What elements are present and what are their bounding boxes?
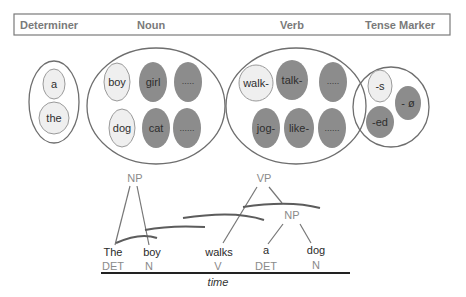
word-girl: girl [146, 76, 161, 88]
word-jog: jog- [256, 122, 276, 134]
word-a: a [51, 78, 58, 90]
timing-arc [243, 204, 320, 208]
token-word-a: a [263, 244, 270, 256]
header-label-tense-marker: Tense Marker [365, 19, 436, 31]
timing-arc [116, 236, 157, 243]
verb-group: walk- talk- ..... jog- like- ...... [226, 48, 366, 164]
tense-marker-group: -s - ø -ed [353, 67, 429, 147]
word-cat: cat [149, 122, 164, 134]
tree-branch [268, 224, 283, 244]
tree-branch [300, 224, 311, 243]
token-word-boy: boy [143, 246, 161, 258]
word-ed: -ed [372, 116, 388, 128]
syntax-diagram: Determiner Noun Verb Tense Marker a the … [0, 0, 466, 297]
word-the: the [46, 112, 61, 124]
verb-more-indicator-2: ...... [324, 123, 339, 133]
timing-arc [145, 226, 205, 230]
token-pos-n-1: N [145, 260, 153, 272]
determiner-group: a the [29, 61, 79, 143]
word-boy: boy [108, 76, 126, 88]
noun-more-indicator-2: ...... [179, 123, 194, 133]
word-walk: walk- [242, 77, 269, 89]
timing-arc [183, 214, 264, 220]
tree-branch [115, 186, 130, 245]
header-label-determiner: Determiner [20, 19, 79, 31]
verb-more-indicator-1: ..... [327, 76, 340, 86]
word-talk: talk- [282, 74, 303, 86]
word-like: like- [289, 122, 310, 134]
token-pos-det-2: DET [255, 260, 277, 272]
token-pos-n-2: N [312, 259, 320, 271]
header-label-verb: Verb [280, 19, 304, 31]
time-axis-label: time [208, 276, 229, 288]
token-word-dog: dog [307, 244, 325, 256]
token-word-walks: walks [204, 246, 233, 258]
noun-more-indicator-1: ..... [182, 76, 195, 86]
header-label-noun: Noun [137, 19, 165, 31]
syntax-tree: NP VP NP The DET boy N walks V a DET dog… [101, 172, 350, 288]
token-word-the: The [104, 246, 123, 258]
word-zero: - ø [401, 97, 415, 109]
tree-node-vp: VP [257, 172, 272, 184]
noun-group: boy girl ..... dog cat ...... [87, 48, 225, 164]
word-s: -s [375, 80, 385, 92]
word-dog: dog [113, 122, 131, 134]
tree-node-np-object: NP [284, 209, 299, 221]
token-pos-v: V [214, 260, 222, 272]
category-header: Determiner Noun Verb Tense Marker [14, 14, 450, 35]
tree-node-np-subject: NP [127, 172, 142, 184]
token-pos-det-1: DET [102, 260, 124, 272]
tree-branch [269, 187, 282, 203]
